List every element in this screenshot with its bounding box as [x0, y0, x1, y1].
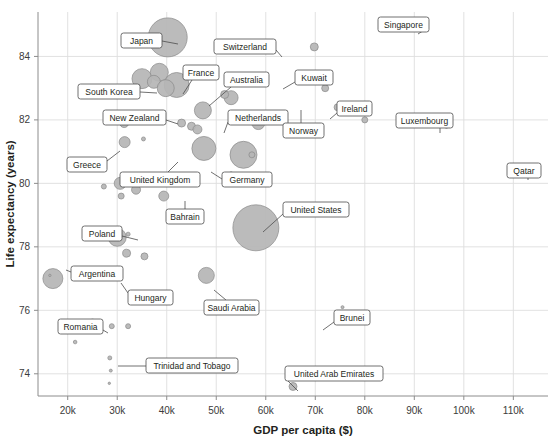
point-label-text: Hungary	[134, 293, 167, 303]
point-label-text: Australia	[230, 75, 263, 85]
bubble-point[interactable]	[141, 253, 148, 260]
label-leader-line	[276, 50, 282, 57]
point-label-text: Ireland	[342, 104, 368, 114]
bubble-point[interactable]	[194, 102, 211, 119]
label-leader-line	[107, 151, 120, 161]
x-tick-label: 50k	[208, 405, 225, 416]
label-leader-line	[103, 330, 108, 333]
point-label-text: New Zealand	[109, 113, 159, 123]
bubble-point[interactable]	[101, 184, 106, 189]
bubble-point[interactable]	[233, 205, 279, 251]
y-tick-label: 80	[19, 178, 31, 189]
x-tick-label: 110k	[503, 405, 525, 416]
y-tick-label: 78	[19, 241, 31, 252]
x-axis-title: GDP per capita ($)	[253, 424, 353, 436]
bubble-point[interactable]	[157, 80, 174, 97]
bubble-point[interactable]	[341, 306, 344, 309]
y-tick-label: 82	[19, 114, 31, 125]
x-tick-label: 80k	[357, 405, 374, 416]
point-label-text: Japan	[130, 36, 153, 46]
point-label-text: Greece	[73, 160, 101, 170]
point-label-text: Luxembourg	[401, 116, 449, 126]
x-tick-label: 60k	[258, 405, 275, 416]
bubble-point[interactable]	[310, 43, 318, 51]
label-leader-line	[121, 283, 128, 293]
point-label-text: Romania	[63, 322, 97, 332]
point-label-text: Brunei	[340, 313, 365, 323]
x-tick-label: 20k	[60, 405, 77, 416]
bubble-point[interactable]	[193, 125, 202, 134]
point-label-text: France	[188, 68, 215, 78]
x-tick-label: 90k	[406, 405, 423, 416]
x-tick-label: 40k	[159, 405, 176, 416]
bubble-point[interactable]	[109, 324, 114, 329]
x-tick-label: 100k	[453, 405, 476, 416]
point-label-text: South Korea	[85, 87, 133, 97]
bubble-point[interactable]	[49, 274, 51, 276]
point-label-text: United States	[290, 205, 341, 215]
point-label-text: Bahrain	[170, 212, 200, 222]
chart-svg: 20k30k40k50k60k70k80k90k100k110k74767880…	[0, 0, 556, 443]
label-leader-line	[330, 113, 337, 119]
bubble-point[interactable]	[126, 232, 130, 236]
point-label-text: Kuwait	[301, 73, 327, 83]
bubble-point[interactable]	[362, 117, 368, 123]
bubble-point[interactable]	[118, 193, 124, 199]
point-label-text: Germany	[230, 175, 266, 185]
bubble-chart: 20k30k40k50k60k70k80k90k100k110k74767880…	[0, 0, 556, 443]
bubble-point[interactable]	[126, 324, 131, 329]
label-leader-line	[283, 82, 295, 89]
bubble-point[interactable]	[119, 137, 130, 148]
bubble-point[interactable]	[109, 369, 112, 372]
y-axis-title: Life expectancy (years)	[4, 140, 16, 267]
label-leader-line	[140, 92, 157, 93]
point-label-text: United Arab Emirates	[294, 369, 374, 379]
label-leader-line	[214, 290, 226, 300]
bubble-point[interactable]	[178, 119, 186, 127]
bubble-point[interactable]	[192, 136, 216, 160]
point-label-text: Poland	[89, 229, 116, 239]
bubble-point[interactable]	[108, 356, 112, 360]
point-label-text: Trinidad and Tobago	[153, 361, 230, 371]
point-label-text: Argentina	[79, 269, 116, 279]
label-leader-line	[166, 120, 178, 124]
bubble-point[interactable]	[322, 85, 329, 92]
bubble-point[interactable]	[43, 269, 63, 289]
point-label-text: United Kingdom	[130, 175, 190, 185]
bubble-point[interactable]	[249, 152, 255, 158]
point-label-text: Switzerland	[223, 42, 267, 52]
point-label-text: Saudi Arabia	[207, 303, 255, 313]
label-leader-line	[66, 270, 71, 272]
y-tick-label: 74	[19, 368, 31, 379]
bubble-point[interactable]	[141, 137, 145, 141]
label-leader-line	[323, 322, 334, 330]
label-leader-line	[168, 162, 178, 172]
point-label-text: Qatar	[513, 166, 534, 176]
x-tick-label: 30k	[109, 405, 126, 416]
point-label-text: Netherlands	[235, 113, 281, 123]
bubble-point[interactable]	[123, 249, 131, 257]
y-tick-label: 84	[19, 51, 31, 62]
bubble-point[interactable]	[198, 267, 214, 283]
bubble-point[interactable]	[73, 340, 77, 344]
point-label-text: Singapore	[384, 20, 423, 30]
bubble-point[interactable]	[159, 191, 169, 201]
x-tick-label: 70k	[307, 405, 324, 416]
label-leader-line	[224, 122, 228, 133]
y-tick-label: 76	[19, 305, 31, 316]
bubble-point[interactable]	[108, 382, 110, 384]
point-label-text: Norway	[289, 126, 319, 136]
